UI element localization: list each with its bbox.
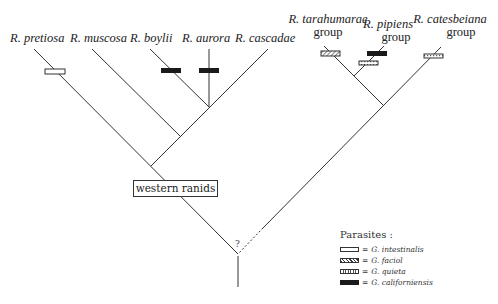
legend-item-faciol: = G. faciol (340, 255, 433, 266)
solid-bar-swatch-icon (340, 280, 359, 285)
legend-label: G. quieta (371, 267, 405, 276)
taxon-label-muscosa: R. muscosa (70, 32, 127, 45)
parasite-legend: Parasites : = G. intestinalis = G. facio… (340, 229, 433, 288)
parasite-bar-catesbeiana-quieta (424, 54, 443, 58)
legend-title: Parasites : (340, 229, 433, 240)
legend-label: G. californiensis (371, 278, 432, 287)
hatched-bar-swatch-icon (340, 258, 359, 263)
parasite-bar-aurora-californiensis (199, 68, 219, 73)
western-ranids-label: western ranids (133, 180, 218, 197)
parasite-bar-tarahumarae-faciol (321, 51, 340, 56)
legend-item-intestinalis: = G. intestinalis (340, 244, 433, 255)
branch-pretiosa (34, 49, 238, 254)
parasite-bar-pipiens-quieta (359, 61, 378, 65)
legend-item-californiensis: = G. californiensis (340, 277, 433, 288)
group-label-catesbeiana-group: group (410, 26, 490, 39)
open-bar-swatch-icon (340, 247, 359, 252)
taxon-label-pretiosa: R. pretiosa (10, 32, 64, 45)
taxon-label-aurora: R. aurora (182, 32, 230, 45)
taxon-label-boylii: R. boylii (130, 32, 172, 45)
legend-label: G. intestinalis (371, 245, 423, 254)
parasite-bar-pretiosa-intestinalis (45, 69, 65, 74)
branch-muscosa (92, 49, 180, 136)
parasite-bar-boylii-californiensis (161, 68, 181, 73)
dotted-bar-swatch-icon (340, 269, 359, 274)
root-uncertainty-mark: ? (235, 239, 240, 249)
dashed-right-root (238, 228, 263, 254)
group-label-catesbeiana: R. catesbeiana group (410, 13, 490, 39)
branch-boylii (150, 49, 209, 107)
legend-item-quieta: = G. quieta (340, 266, 433, 277)
legend-label: G. faciol (371, 256, 402, 265)
parasite-bar-pipiens-californiensis (367, 51, 387, 56)
